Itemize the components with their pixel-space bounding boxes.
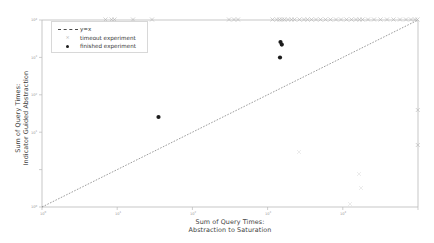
timeout-marker-group-interior [297, 150, 363, 206]
x-marker-icon: × [56, 34, 80, 43]
svg-text:103: 103 [265, 211, 272, 216]
y-axis-ticks [39, 20, 42, 207]
legend-label-finished: finished experiment [80, 42, 136, 51]
y-axis-ticklabels: 100 101 102 103 104 [31, 18, 38, 210]
svg-text:102: 102 [31, 93, 38, 98]
y-axis-title: Sum of Query Times: Indicator Guided Abs… [14, 24, 30, 212]
x-axis-ticks [42, 207, 418, 210]
filled-circle-marker-icon [56, 42, 80, 51]
svg-text:101: 101 [31, 130, 38, 135]
legend-label-timeout: timeout experiment [80, 34, 136, 43]
legend-label-identity: y=x [80, 25, 91, 34]
legend-entry-identity: y=x [56, 25, 143, 34]
scatter-plot-figure: 100 101 102 103 104 100 101 102 103 104 [0, 0, 434, 243]
svg-text:100: 100 [31, 205, 38, 210]
svg-text:104: 104 [340, 211, 347, 216]
finished-marker-group [156, 40, 284, 119]
svg-text:102: 102 [190, 211, 197, 216]
x-axis-title: Sum of Query Times: Abstraction to Satur… [42, 218, 418, 234]
svg-text:101: 101 [115, 211, 122, 216]
timeout-marker-group-top [104, 18, 420, 22]
svg-text:104: 104 [31, 18, 38, 23]
svg-text:100: 100 [40, 211, 47, 216]
legend: y=x × timeout experiment finished experi… [51, 21, 148, 53]
dashed-line-marker-icon [56, 25, 80, 34]
svg-text:103: 103 [31, 55, 38, 60]
legend-entry-timeout: × timeout experiment [56, 34, 143, 43]
x-axis-ticklabels: 100 101 102 103 104 [40, 211, 347, 216]
legend-entry-finished: finished experiment [56, 42, 143, 51]
